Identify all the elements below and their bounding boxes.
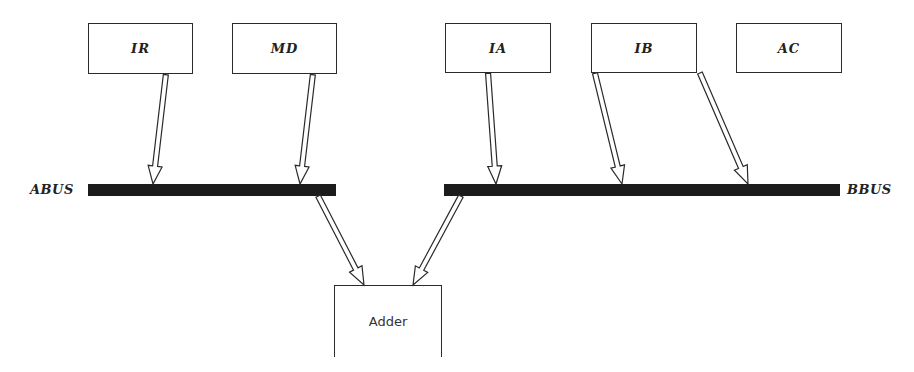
arrow-ia-to-bbus bbox=[481, 73, 503, 185]
arrow-ib-to-bbus bbox=[588, 72, 629, 186]
arrow-abus-to-adder bbox=[312, 193, 370, 288]
arrow-md-to-abus bbox=[293, 74, 320, 185]
arrow-bbus-to-adder bbox=[407, 193, 467, 289]
arrows-layer bbox=[0, 0, 914, 372]
arrow-ac-to-bbus bbox=[694, 70, 755, 187]
arrow-ir-to-abus bbox=[146, 74, 173, 185]
bus-diagram: IR MD IA IB AC ABUS BBUS Adder bbox=[0, 0, 914, 372]
